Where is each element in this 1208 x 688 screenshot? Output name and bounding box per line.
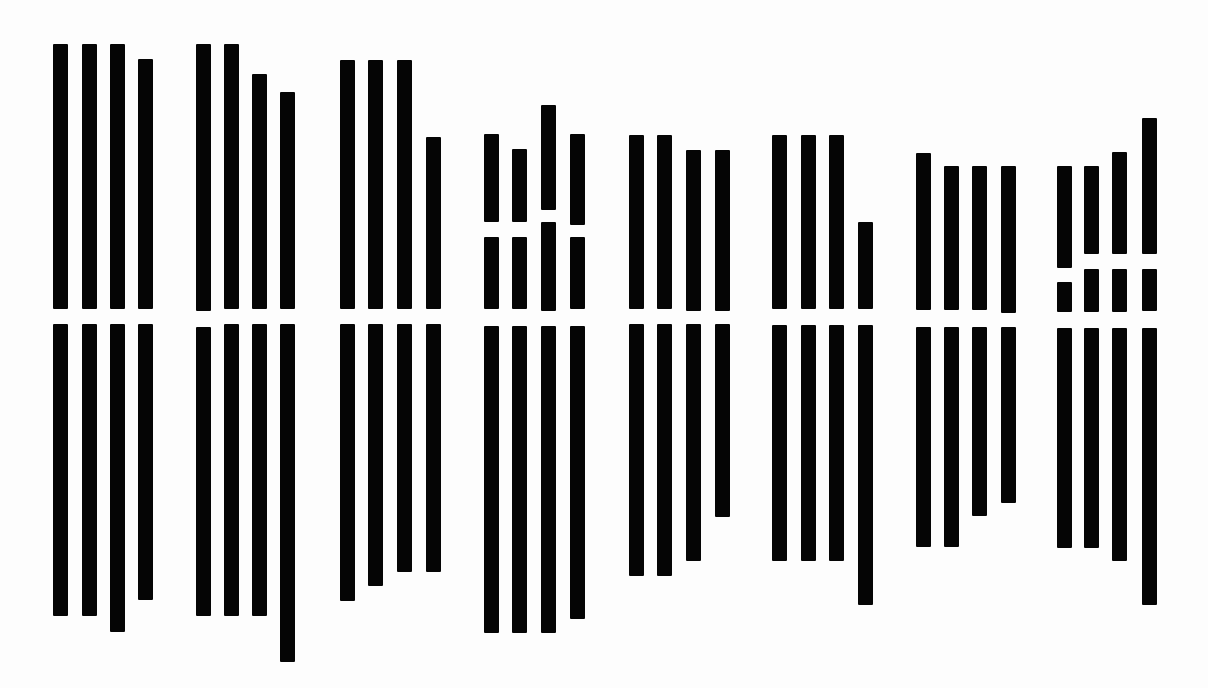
bar-segment	[570, 326, 585, 619]
bar-segment	[829, 135, 844, 309]
bar-segment	[280, 92, 295, 309]
bar-segment	[1142, 328, 1157, 605]
bar-segment	[397, 324, 412, 572]
bar-segment	[686, 150, 701, 311]
bar-segment	[280, 324, 295, 662]
bar-segment	[368, 60, 383, 309]
bar-segment	[972, 166, 987, 310]
bar-segment	[1057, 166, 1072, 268]
bar-segment	[53, 44, 68, 309]
bar-segment	[858, 222, 873, 309]
bar-segment	[541, 222, 556, 311]
bar-segment	[53, 324, 68, 616]
bar-segment	[541, 105, 556, 210]
bar-segment	[1112, 328, 1127, 561]
bar-segment	[196, 327, 211, 616]
bar-segment	[484, 237, 499, 309]
bar-segment	[657, 324, 672, 576]
bar-segment	[1112, 269, 1127, 312]
bar-segment	[1142, 118, 1157, 254]
bar-segment	[686, 324, 701, 561]
bar-segment	[772, 325, 787, 561]
bar-segment	[196, 44, 211, 311]
bar-segment	[82, 44, 97, 309]
bar-segment	[252, 74, 267, 309]
bar-segment	[657, 135, 672, 309]
bar-segment	[224, 44, 239, 309]
bar-segment	[484, 326, 499, 633]
bar-segment	[1057, 282, 1072, 312]
bar-segment	[512, 149, 527, 222]
bar-segment	[1084, 328, 1099, 548]
bar-segment	[138, 324, 153, 600]
bar-segment	[972, 327, 987, 516]
bar-segment	[1001, 166, 1016, 313]
bar-segment	[340, 324, 355, 601]
bar-segment	[801, 325, 816, 561]
bar-segment	[715, 324, 730, 517]
bar-segment	[110, 44, 125, 309]
bar-segment	[484, 134, 499, 222]
bar-segment	[715, 150, 730, 311]
bar-segment	[138, 59, 153, 309]
bar-segment	[772, 135, 787, 309]
bar-segment	[541, 326, 556, 633]
bar-segment	[629, 135, 644, 309]
bar-segment	[1142, 269, 1157, 311]
bar-segment	[426, 324, 441, 572]
bar-segment	[110, 324, 125, 632]
bar-pattern-figure	[0, 0, 1208, 688]
bar-segment	[426, 137, 441, 309]
bar-segment	[944, 166, 959, 310]
bar-segment	[944, 327, 959, 547]
bar-segment	[252, 324, 267, 616]
bar-segment	[1112, 152, 1127, 254]
bar-segment	[916, 327, 931, 547]
bar-segment	[858, 325, 873, 605]
bar-segment	[397, 60, 412, 309]
bar-segment	[829, 325, 844, 561]
bar-segment	[1084, 269, 1099, 312]
bar-segment	[1057, 328, 1072, 548]
bar-segment	[340, 60, 355, 309]
bar-segment	[368, 324, 383, 586]
bar-segment	[1084, 166, 1099, 254]
bar-segment	[1001, 327, 1016, 503]
bar-segment	[512, 237, 527, 309]
bar-segment	[82, 324, 97, 616]
bar-segment	[916, 153, 931, 310]
bar-segment	[570, 237, 585, 309]
bar-segment	[801, 135, 816, 309]
bar-segment	[570, 134, 585, 225]
bar-segment	[512, 326, 527, 633]
bar-segment	[629, 324, 644, 576]
bar-segment	[224, 324, 239, 616]
